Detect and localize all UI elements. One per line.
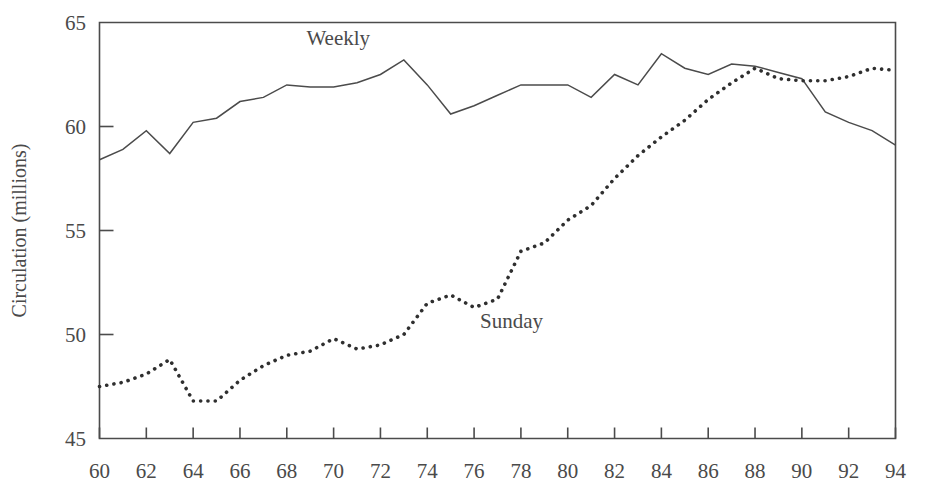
y-axis-tick-labels: 4550556065 (65, 11, 86, 451)
chart-container: 606264666870727476788082848688909294 455… (0, 0, 926, 492)
x-tick-label: 86 (698, 459, 719, 483)
series-label-sunday: Sunday (480, 309, 544, 333)
x-tick-label: 64 (183, 459, 205, 483)
plot-frame (100, 23, 896, 439)
x-tick-label: 70 (323, 459, 344, 483)
y-axis-title: Circulation (millions) (8, 144, 31, 318)
x-tick-label: 90 (791, 459, 812, 483)
y-tick-label: 55 (65, 219, 86, 243)
series-label-weekly: Weekly (306, 26, 370, 50)
x-tick-label: 60 (89, 459, 110, 483)
x-axis-tick-labels: 606264666870727476788082848688909294 (89, 459, 907, 483)
y-tick-label: 65 (65, 11, 86, 35)
x-tick-label: 68 (276, 459, 297, 483)
y-tick-label: 60 (65, 115, 86, 139)
x-axis-tick-marks (100, 428, 896, 439)
x-tick-label: 76 (464, 459, 485, 483)
y-tick-label: 45 (65, 427, 86, 451)
series-inline-labels: WeeklySunday (306, 26, 543, 333)
y-tick-label: 50 (65, 323, 86, 347)
series-line-weekly (100, 54, 896, 160)
series-line-sunday (100, 68, 896, 401)
x-tick-label: 94 (885, 459, 907, 483)
x-tick-label: 72 (370, 459, 391, 483)
y-axis-title-group: Circulation (millions) (8, 144, 31, 318)
x-tick-label: 82 (604, 459, 625, 483)
x-tick-label: 66 (229, 459, 250, 483)
x-tick-label: 88 (745, 459, 766, 483)
x-tick-label: 84 (651, 459, 673, 483)
circulation-line-chart: 606264666870727476788082848688909294 455… (0, 0, 926, 492)
y-axis-tick-marks (100, 127, 114, 335)
x-tick-label: 78 (510, 459, 531, 483)
data-series-group (100, 54, 896, 401)
x-tick-label: 62 (136, 459, 157, 483)
x-tick-label: 92 (838, 459, 859, 483)
x-tick-label: 74 (417, 459, 439, 483)
x-tick-label: 80 (557, 459, 578, 483)
